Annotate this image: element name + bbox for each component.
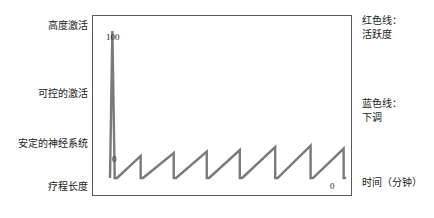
figure-container: 100 0 0 高度激活 可控的激活 安定的神经系统 疗程长度 红色线： 活跃度… — [0, 0, 434, 218]
activation-curve — [110, 31, 346, 178]
left-label-controlled-activation: 可控的激活 — [38, 88, 88, 101]
left-label-settled-nervous-system: 安定的神经系统 — [18, 138, 88, 151]
legend-red-line: 红色线： 活跃度 — [362, 14, 402, 41]
legend-blue-line-title: 蓝色线： — [362, 97, 402, 111]
left-label-session-length: 疗程长度 — [48, 181, 88, 194]
legend-blue-line-value: 下调 — [362, 111, 402, 125]
legend-red-line-title: 红色线： — [362, 14, 402, 28]
legend-red-line-value: 活跃度 — [362, 28, 402, 42]
x-axis-title: 时间（分钟） — [362, 176, 422, 190]
x-axis-end-label: 0 — [330, 182, 335, 191]
left-label-high-activation: 高度激活 — [48, 20, 88, 33]
y-axis-min-label: 0 — [112, 155, 117, 164]
plot-curve-layer — [92, 15, 352, 196]
legend-blue-line: 蓝色线： 下调 — [362, 97, 402, 124]
y-axis-max-label: 100 — [106, 33, 120, 42]
